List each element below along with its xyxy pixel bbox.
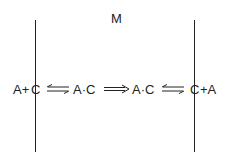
reversible-arrow-icon	[160, 84, 186, 94]
membrane-label: M	[111, 12, 122, 25]
species-complex-2: A·C	[132, 83, 154, 96]
species-left-outside: A+	[13, 83, 29, 96]
species-left-carrier: C	[31, 83, 40, 96]
reversible-arrow-icon	[45, 84, 71, 94]
forward-double-arrow-icon	[103, 84, 131, 94]
species-right-outside: +A	[200, 83, 216, 96]
species-complex-1: A·C	[73, 83, 95, 96]
species-right-carrier: C	[190, 83, 199, 96]
